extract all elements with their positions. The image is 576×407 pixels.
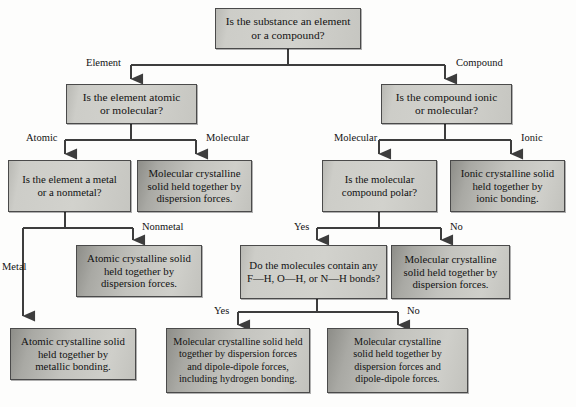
node-root-line-1: Is the substance an element [226,15,351,27]
node-nonpolar-molecular-result-line-1: Molecular crystalline [404,253,496,265]
edge-label-metal: Metal [2,262,27,273]
node-molecular-element-result-line-2: solid held together by [148,180,242,192]
node-element-question: Is the element atomic or molecular? [66,84,197,124]
node-dipole-dipole-result-line-4: dipole-dipole forces. [355,373,439,384]
edge-label-molecular-right: Molecular [334,133,377,144]
node-hydrogen-bond-question: Do the molecules contain any F—H, O—H, o… [240,245,387,299]
node-root: Is the substance an element or a compoun… [215,8,361,49]
node-metal-question-line-2: or a nonmetal? [37,186,101,198]
node-metal-question: Is the element a metal or a nonmetal? [8,160,131,212]
edge-label-polar-yes: Yes [294,222,309,233]
edge-label-ionic: Ionic [521,133,543,144]
node-ionic-solid-result: Ionic crystalline solid held together by… [450,160,565,212]
node-dipole-dipole-result-line-3: dispersion forces and [354,361,441,372]
node-element-question-line-1: Is the element atomic [83,91,181,103]
node-element-question-line-2: or molecular? [100,104,163,116]
node-metal-question-line-1: Is the element a metal [22,173,117,185]
node-hydrogen-bonding-result-line-1: Molecular crystalline solid held [173,336,302,347]
node-molecular-element-result: Molecular crystalline solid held togethe… [137,160,252,212]
node-metallic-solid-result: Atomic crystalline solid held together b… [10,328,136,380]
node-dipole-dipole-result-line-1: Molecular crystalline [354,336,441,347]
node-ionic-solid-result-line-2: held together by [472,180,542,192]
node-metallic-solid-result-line-2: held together by [38,348,108,360]
node-compound-question-line-2: or molecular? [415,104,478,116]
node-polar-question-line-1: Is the molecular [345,173,415,185]
node-dipole-dipole-result-line-2: solid held together by [353,348,442,359]
edge-label-atomic: Atomic [26,133,58,144]
node-hydrogen-bonding-result-line-4: including hydrogen bonding. [179,373,297,384]
flowchart-canvas: Is the substance an element or a compoun… [0,0,576,407]
node-atomic-dispersion-result-line-2: held together by [104,265,174,277]
edge-label-nonmetal: Nonmetal [142,222,183,233]
node-atomic-dispersion-result: Atomic crystalline solid held together b… [76,245,202,297]
node-atomic-dispersion-result-line-1: Atomic crystalline solid [87,252,191,264]
edge-label-hbond-no: No [407,306,420,317]
node-ionic-solid-result-line-1: Ionic crystalline solid [461,167,555,179]
node-hydrogen-bonding-result: Molecular crystalline solid held togethe… [166,328,310,393]
node-hydrogen-bonding-result-line-2: together by dispersion forces [179,348,297,359]
node-compound-question: Is the compound ionic or molecular? [381,84,512,124]
edge-label-hbond-yes: Yes [214,306,229,317]
node-molecular-element-result-line-1: Molecular crystalline [148,167,240,179]
node-hydrogen-bonding-result-line-3: and dipole-dipole forces, [187,361,289,372]
node-ionic-solid-result-line-3: ionic bonding. [476,192,538,204]
edge-label-molecular-left: Molecular [206,133,249,144]
node-hydrogen-bond-question-line-2: F—H, O—H, or N—H bonds? [247,272,380,284]
node-metallic-solid-result-line-1: Atomic crystalline solid [21,335,125,347]
node-dipole-dipole-result: Molecular crystalline solid held togethe… [327,328,468,393]
node-atomic-dispersion-result-line-3: dispersion forces. [101,277,177,289]
node-root-line-2: or a compound? [251,29,324,41]
edge-label-element: Element [86,58,121,69]
edge-label-polar-no: No [450,222,463,233]
node-metallic-solid-result-line-3: metallic bonding. [35,360,111,372]
node-polar-question: Is the molecular compound polar? [322,160,437,212]
node-compound-question-line-1: Is the compound ionic [396,91,498,103]
node-nonpolar-molecular-result-line-2: solid held together by [404,266,498,278]
node-nonpolar-molecular-result: Molecular crystalline solid held togethe… [391,245,510,299]
node-molecular-element-result-line-3: dispersion forces. [156,192,232,204]
node-polar-question-line-2: compound polar? [342,186,417,198]
node-nonpolar-molecular-result-line-3: dispersion forces. [412,278,488,290]
edge-label-compound: Compound [456,58,503,69]
node-hydrogen-bond-question-line-1: Do the molecules contain any [249,259,377,271]
